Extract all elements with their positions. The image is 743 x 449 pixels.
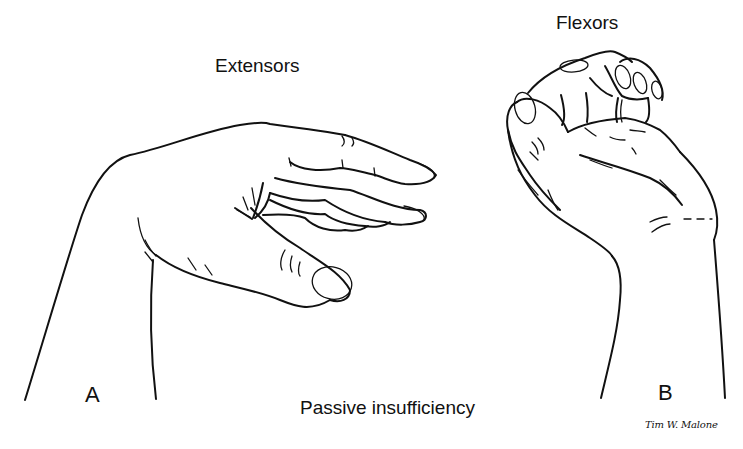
panel-b-label: B [658, 382, 673, 404]
flexors-label: Flexors [556, 13, 618, 32]
hand-b-flexors-illustration [507, 51, 725, 398]
panel-a-label: A [85, 384, 100, 406]
passive-insufficiency-figure: Extensors Flexors A B Passive insufficie… [0, 0, 743, 449]
hand-a-extensors-illustration [25, 123, 436, 400]
artist-signature: Tim W. Malone [645, 419, 718, 430]
figure-caption: Passive insufficiency [300, 398, 475, 417]
illustration-canvas [0, 0, 743, 449]
extensors-label: Extensors [215, 56, 299, 75]
